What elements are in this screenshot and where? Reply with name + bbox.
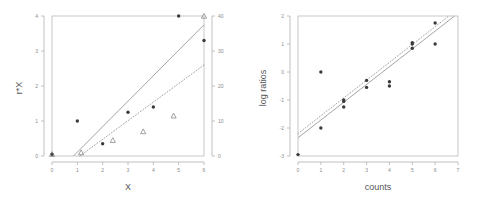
data-point-triangle [171, 113, 176, 118]
x-tick-label: 7 [457, 167, 460, 173]
x-tick-label: 6 [434, 167, 437, 173]
secondary-y-tick-label: 0 [218, 153, 221, 159]
data-point-circle [411, 47, 414, 50]
data-point-circle [365, 86, 368, 89]
left-y-axis-title: r*X [14, 82, 24, 95]
right-scatter-panel: 01234567 -3-2-1012 counts log ratios [240, 0, 480, 198]
left-plot-svg: 0123456 01234 010203040 X r*X [0, 0, 240, 198]
secondary-y-tick-label: 20 [218, 83, 224, 89]
left-y-axis: 01234 [35, 13, 44, 159]
data-point-circle [433, 21, 436, 24]
right-plot-svg: 01234567 -3-2-1012 counts log ratios [240, 0, 480, 198]
y-tick-label: -1 [280, 97, 285, 103]
data-point-circle [388, 80, 391, 83]
right-fit-lines [298, 16, 455, 138]
left-plot-frame [52, 16, 204, 156]
right-x-axis-title: counts [365, 182, 392, 192]
y-tick-label: 1 [281, 41, 284, 47]
dotted-fit-line [298, 16, 449, 134]
data-point-circle [411, 41, 414, 44]
y-tick-label: 0 [35, 153, 38, 159]
right-data-points [296, 21, 437, 156]
secondary-y-tick-label: 10 [218, 118, 224, 124]
x-tick-label: 1 [76, 167, 79, 173]
data-point-circle [319, 70, 322, 73]
y-tick-label: 0 [281, 69, 284, 75]
left-fit-lines [74, 25, 204, 156]
figure-canvas: 0123456 01234 010203040 X r*X 01234567 -… [0, 0, 480, 198]
data-point-circle [319, 126, 322, 129]
y-tick-label: 3 [35, 48, 38, 54]
data-point-circle [126, 111, 129, 114]
x-tick-label: 3 [127, 167, 130, 173]
x-tick-label: 0 [51, 167, 54, 173]
left-data-points [49, 13, 206, 156]
x-tick-label: 6 [203, 167, 206, 173]
y-tick-label: 2 [281, 13, 284, 19]
y-tick-label: 1 [35, 118, 38, 124]
data-point-circle [202, 39, 205, 42]
right-plot-frame [298, 16, 458, 156]
data-point-circle [76, 119, 79, 122]
x-tick-label: 5 [177, 167, 180, 173]
x-tick-label: 1 [319, 167, 322, 173]
data-point-circle [296, 153, 299, 156]
right-x-axis: 01234567 [297, 162, 460, 173]
y-tick-label: -2 [280, 125, 285, 131]
y-tick-label: 2 [35, 83, 38, 89]
right-plot-border [298, 16, 458, 156]
secondary-y-tick-label: 30 [218, 48, 224, 54]
data-point-circle [177, 14, 180, 17]
x-tick-label: 2 [101, 167, 104, 173]
solid-fit-line [74, 25, 204, 156]
x-tick-label: 4 [152, 167, 155, 173]
x-tick-label: 2 [342, 167, 345, 173]
solid-fit-line [298, 16, 455, 138]
x-tick-label: 5 [411, 167, 414, 173]
data-point-circle [388, 84, 391, 87]
data-point-circle [365, 79, 368, 82]
x-tick-label: 4 [388, 167, 391, 173]
left-x-axis: 0123456 [51, 162, 206, 173]
data-point-circle [433, 42, 436, 45]
y-tick-label: 4 [35, 13, 38, 19]
dotted-fit-line [80, 65, 204, 156]
left-secondary-y-axis: 010203040 [212, 13, 224, 159]
left-plot-border [52, 16, 204, 156]
data-point-triangle [110, 138, 115, 143]
data-point-circle [342, 98, 345, 101]
left-x-axis-title: X [125, 182, 131, 192]
right-y-axis: -3-2-1012 [280, 13, 290, 159]
data-point-circle [342, 105, 345, 108]
y-tick-label: -3 [280, 153, 285, 159]
x-tick-label: 0 [297, 167, 300, 173]
right-y-axis-title: log ratios [258, 69, 268, 106]
data-point-circle [152, 105, 155, 108]
secondary-y-tick-label: 40 [218, 13, 224, 19]
data-point-triangle [141, 129, 146, 134]
data-point-circle [101, 142, 104, 145]
x-tick-label: 3 [365, 167, 368, 173]
left-scatter-panel: 0123456 01234 010203040 X r*X [0, 0, 240, 198]
